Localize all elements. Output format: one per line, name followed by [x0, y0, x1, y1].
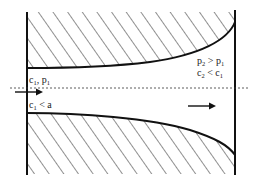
outlet-velocity-label: c2 < c1: [197, 67, 223, 79]
outlet-pressure-label: p2 > p1: [197, 55, 224, 67]
diffuser-diagram: c1, p1 c1 < a p2 > p1 c2 < c1: [0, 0, 257, 182]
inlet-condition-label: c1 < a: [29, 99, 52, 111]
lower-wall-hatch: [27, 113, 235, 174]
inlet-state-label: c1, p1: [29, 74, 50, 86]
inlet-arrow-icon: [15, 89, 43, 96]
outlet-arrow-icon: [188, 103, 216, 110]
